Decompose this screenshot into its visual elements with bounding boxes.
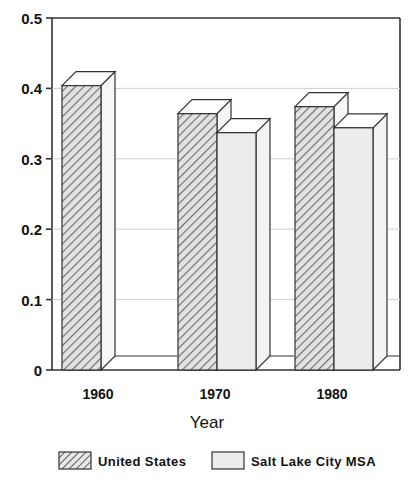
bar-chart-svg: 0.5 0.4 0.3 0.2 0.1 0 [0,0,414,483]
chart-legend: United States Salt Lake City MSA [59,452,376,469]
x-tick-label-1960: 1960 [82,386,113,402]
chart-container: 0.5 0.4 0.3 0.2 0.1 0 [0,0,414,483]
legend-swatch-salt-lake-city-msa [212,452,244,469]
bar-us-1970-front [178,114,217,370]
x-tick-label-1970: 1970 [199,386,230,402]
legend-swatch-united-states [59,452,91,469]
bar-us-1960 [62,72,115,370]
bar-us-1980-front [295,107,334,370]
legend-item-salt-lake-city-msa[interactable]: Salt Lake City MSA [212,452,376,469]
bar-slc-1980 [334,114,387,370]
legend-label-salt-lake-city-msa: Salt Lake City MSA [251,454,376,469]
bar-slc-1980-front [334,128,373,370]
y-tick-label-0.4: 0.4 [21,80,43,97]
y-tick-label-0.5: 0.5 [21,10,42,27]
bar-slc-1980-side [373,114,387,370]
y-tick-label-0.2: 0.2 [21,221,42,238]
y-tick-label-0.1: 0.1 [21,292,42,309]
y-tick-label-0.3: 0.3 [21,151,42,168]
bar-slc-1970 [217,119,270,370]
x-axis-tick-labels: 1960 1970 1980 [82,386,347,402]
legend-label-united-states: United States [98,454,186,469]
bar-us-1960-front [62,86,101,370]
x-axis-title: Year [190,413,225,432]
x-tick-label-1980: 1980 [316,386,347,402]
bar-slc-1970-side [256,119,270,370]
y-tick-label-0: 0 [34,362,42,379]
y-axis-tick-labels: 0.5 0.4 0.3 0.2 0.1 0 [21,10,43,379]
bar-slc-1970-front [217,133,256,370]
legend-item-united-states[interactable]: United States [59,452,186,469]
bar-us-1960-side [101,72,115,370]
y-axis-ticks [46,18,52,370]
